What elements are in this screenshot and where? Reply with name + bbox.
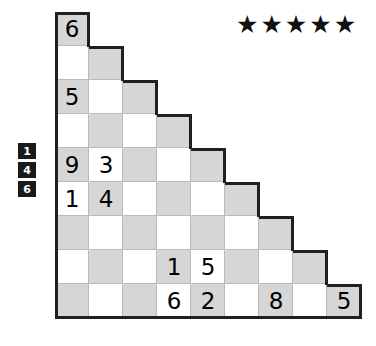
grid-cell[interactable]: 8: [259, 284, 293, 318]
grid-outline-segment: [223, 148, 226, 183]
grid-cell[interactable]: [293, 250, 327, 284]
grid-cell[interactable]: [89, 46, 123, 80]
grid-outline-segment: [55, 46, 58, 81]
grid-cell[interactable]: [123, 216, 157, 250]
grid-outline-segment: [55, 114, 58, 149]
grid-outline-segment: [191, 148, 226, 151]
grid-cell[interactable]: [225, 284, 259, 318]
grid-outline-segment: [55, 12, 90, 15]
grid-cell[interactable]: [89, 250, 123, 284]
grid-outline-segment: [189, 114, 192, 149]
grid-row: 93: [55, 148, 361, 182]
grid-cell[interactable]: [123, 284, 157, 318]
grid-cell[interactable]: [89, 114, 123, 148]
grid-outline-segment: [55, 80, 58, 115]
grid-outline-segment: [55, 148, 58, 183]
grid-outline-segment: [325, 250, 328, 285]
grid-outline-segment: [257, 182, 260, 217]
grid-cell[interactable]: [225, 216, 259, 250]
grid-cell[interactable]: [157, 216, 191, 250]
row-clue-box: 1: [18, 143, 36, 159]
puzzle-grid: 659314156285: [55, 12, 361, 318]
grid-cell[interactable]: [89, 284, 123, 318]
grid-row: [55, 114, 361, 148]
row-clue-box: 4: [18, 162, 36, 178]
grid-cell[interactable]: [157, 114, 191, 148]
grid-cell[interactable]: [157, 148, 191, 182]
row-clue-box: 6: [18, 181, 36, 197]
grid-outline-segment: [55, 216, 58, 251]
grid-cell[interactable]: [293, 284, 327, 318]
grid-cell[interactable]: [89, 216, 123, 250]
grid-outline-segment: [123, 316, 158, 319]
puzzle-container: ★★★★★ 146 659314156285: [0, 0, 376, 346]
grid-cell[interactable]: 4: [89, 182, 123, 216]
grid-outline-segment: [55, 12, 58, 47]
grid-cell[interactable]: [55, 216, 89, 250]
grid-cell[interactable]: [123, 148, 157, 182]
grid-cell[interactable]: 9: [55, 148, 89, 182]
grid-cell[interactable]: [259, 250, 293, 284]
grid-outline-segment: [55, 284, 58, 319]
grid-row: [55, 216, 361, 250]
grid-cell[interactable]: 5: [327, 284, 361, 318]
grid-outline-segment: [157, 316, 192, 319]
grid-outline-segment: [259, 316, 294, 319]
grid-cell[interactable]: [123, 80, 157, 114]
grid-cell[interactable]: 1: [55, 182, 89, 216]
grid-outline-segment: [87, 12, 90, 47]
grid-outline-segment: [55, 316, 90, 319]
row-clue-list: 146: [18, 143, 38, 197]
grid-outline-segment: [225, 316, 260, 319]
grid-cell[interactable]: [191, 216, 225, 250]
grid-outline-segment: [293, 316, 328, 319]
grid-outline-segment: [293, 250, 328, 253]
grid-outline-segment: [259, 216, 294, 219]
grid-cell[interactable]: [55, 250, 89, 284]
grid-outline-segment: [191, 316, 226, 319]
grid-cell[interactable]: [191, 182, 225, 216]
grid-outline-segment: [155, 80, 158, 115]
grid-cell[interactable]: 1: [157, 250, 191, 284]
grid-cell[interactable]: [55, 114, 89, 148]
grid-cell[interactable]: [225, 250, 259, 284]
grid-row: [55, 46, 361, 80]
grid-cell[interactable]: [191, 148, 225, 182]
grid-cell[interactable]: [225, 182, 259, 216]
grid-outline-segment: [55, 182, 58, 217]
grid-cell[interactable]: [123, 182, 157, 216]
grid-cell[interactable]: 6: [157, 284, 191, 318]
grid-row: 6: [55, 12, 361, 46]
grid-outline-segment: [89, 316, 124, 319]
grid-outline-segment: [359, 284, 362, 319]
grid-outline-segment: [157, 114, 192, 117]
grid-cell[interactable]: [55, 284, 89, 318]
grid-outline-segment: [327, 316, 362, 319]
grid-cell[interactable]: [157, 182, 191, 216]
grid-cell[interactable]: 3: [89, 148, 123, 182]
grid-row: 5: [55, 80, 361, 114]
grid-cell[interactable]: [89, 80, 123, 114]
grid-outline-segment: [55, 250, 58, 285]
grid-cell[interactable]: 2: [191, 284, 225, 318]
grid-outline-segment: [89, 46, 124, 49]
grid-row: 14: [55, 182, 361, 216]
grid-row: 15: [55, 250, 361, 284]
grid-outline-segment: [123, 80, 158, 83]
grid-outline-segment: [291, 216, 294, 251]
grid-cell[interactable]: [123, 250, 157, 284]
grid-row: 6285: [55, 284, 361, 318]
grid-cell[interactable]: 5: [55, 80, 89, 114]
grid-cell[interactable]: [259, 216, 293, 250]
grid-cell[interactable]: [55, 46, 89, 80]
grid-outline-segment: [327, 284, 362, 287]
grid-cell[interactable]: 5: [191, 250, 225, 284]
grid-outline-segment: [121, 46, 124, 81]
grid-outline-segment: [225, 182, 260, 185]
grid-cell[interactable]: [123, 114, 157, 148]
grid-cell[interactable]: 6: [55, 12, 89, 46]
